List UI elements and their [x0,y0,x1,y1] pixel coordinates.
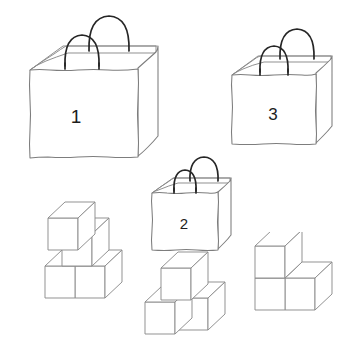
bag-2: 2 [140,150,250,265]
cube-bottom-right-front [75,266,105,298]
bag-3-number-label: 3 [268,105,277,124]
bag-2-side-face [218,178,231,249]
bag-1-inner-wall [30,46,156,70]
cube-right-bottom-left-front [255,278,285,310]
cube-group-middle [133,250,238,345]
puzzle-canvas: 1 3 2 [0,0,363,345]
cube-bottom-left-front [45,266,75,298]
bag-1-front-face [30,69,139,158]
bag-2-number-label: 2 [180,215,188,232]
bag-1-side-face [138,46,158,156]
cube-mid-top-front [161,268,191,300]
cube-top-front [48,218,78,250]
bag-3-inner-wall [232,56,331,75]
bag-3: 3 [218,15,353,165]
cube-group-right [243,232,353,327]
cube-right-top-front [255,246,285,278]
cube-right-bottom-right-front [285,278,315,310]
cube-mid-bottom-left-front [145,302,175,334]
cube-group-left [30,188,140,318]
bag-3-side-face [316,56,332,143]
bag-1-number-label: 1 [71,106,82,127]
